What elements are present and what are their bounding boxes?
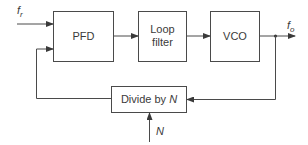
- loop-filter-label-line1: Loop: [150, 23, 174, 35]
- loop-filter-label-line2: filter: [152, 36, 173, 48]
- divider-label: Divide by N: [121, 93, 177, 105]
- n-control-input: N: [150, 113, 165, 142]
- pfd-block: PFD: [54, 12, 114, 62]
- vco-label: VCO: [223, 30, 247, 42]
- divider-block: Divide by N: [112, 87, 187, 113]
- fo-label: fo: [287, 19, 295, 34]
- pfd-label: PFD: [73, 30, 95, 42]
- output: fo: [260, 19, 295, 38]
- pll-diagram: fr PFD Loop filter VCO fo Divide by N N: [0, 0, 308, 145]
- loop-filter-block: Loop filter: [139, 12, 187, 62]
- fr-label: fr: [17, 4, 23, 19]
- vco-block: VCO: [211, 12, 260, 62]
- n-label: N: [156, 125, 164, 137]
- reference-input: fr: [17, 4, 53, 24]
